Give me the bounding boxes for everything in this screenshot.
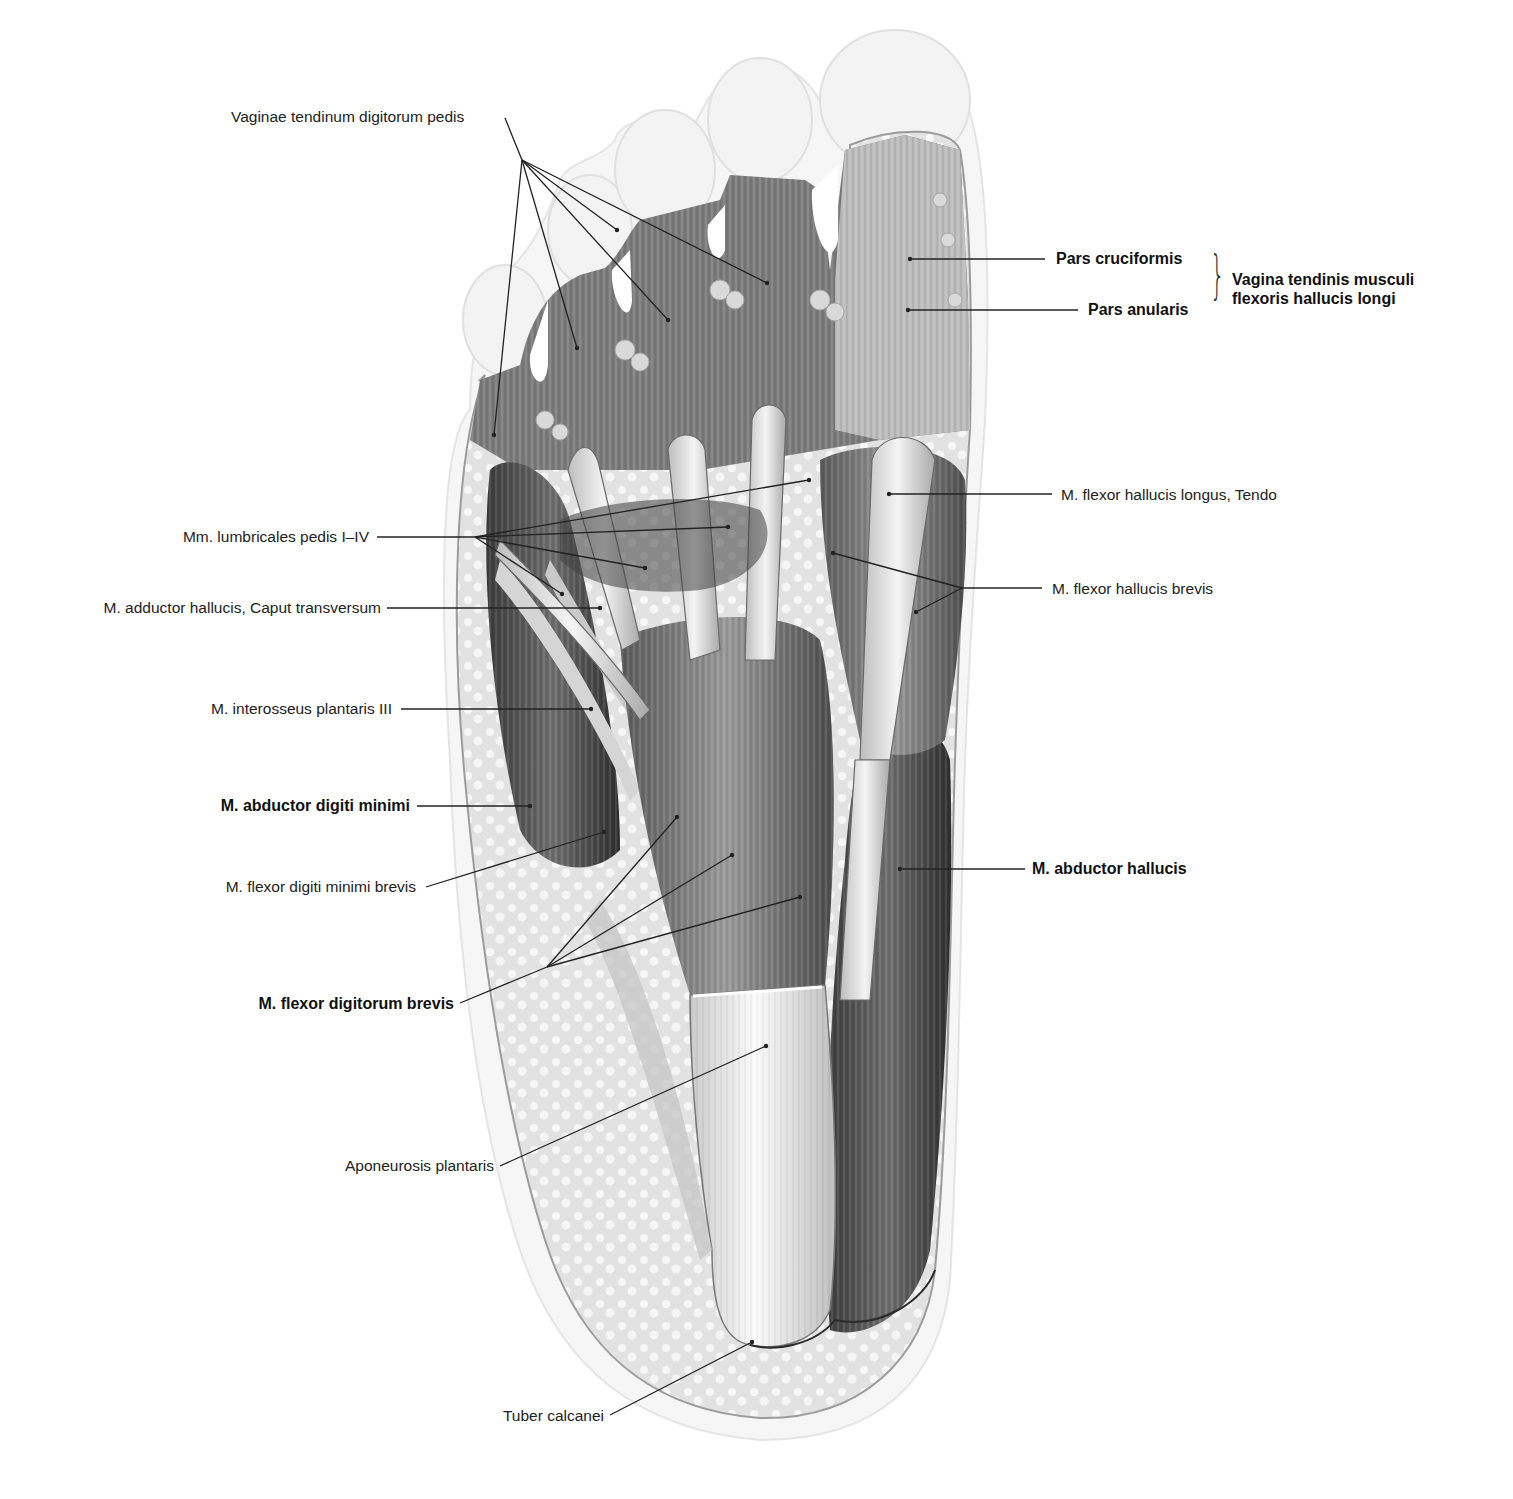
label-pars-cruciformis: Pars cruciformis (1056, 250, 1182, 268)
label-tuber-calcanei: Tuber calcanei (503, 1407, 604, 1425)
label-pars-anularis: Pars anularis (1088, 301, 1189, 319)
label-vagina-fhl-line2: flexoris hallucis longi (1232, 289, 1396, 308)
plantar-foot-illustration (0, 0, 1513, 1499)
brace-icon: } (1210, 248, 1225, 300)
label-flexor-digitorum-brevis: M. flexor digitorum brevis (258, 995, 454, 1013)
label-fhb: M. flexor hallucis brevis (1052, 580, 1213, 598)
label-abductor-digiti-minimi: M. abductor digiti minimi (221, 797, 410, 815)
deep-transverse-region (560, 499, 768, 592)
label-adductor-hallucis: M. adductor hallucis, Caput transversum (104, 599, 381, 617)
label-interosseus-plantaris: M. interosseus plantaris III (211, 700, 392, 718)
label-fhl-tendo: M. flexor hallucis longus, Tendo (1061, 486, 1277, 504)
label-flexor-digiti-minimi: M. flexor digiti minimi brevis (226, 878, 416, 896)
label-abductor-hallucis: M. abductor hallucis (1032, 860, 1187, 878)
label-vagina-fhl-line1: Vagina tendinis musculi (1232, 270, 1414, 289)
label-aponeurosis-plantaris: Aponeurosis plantaris (345, 1157, 494, 1175)
label-vaginae-tendinum: Vaginae tendinum digitorum pedis (231, 108, 464, 126)
label-lumbricales: Mm. lumbricales pedis I–IV (183, 528, 369, 546)
